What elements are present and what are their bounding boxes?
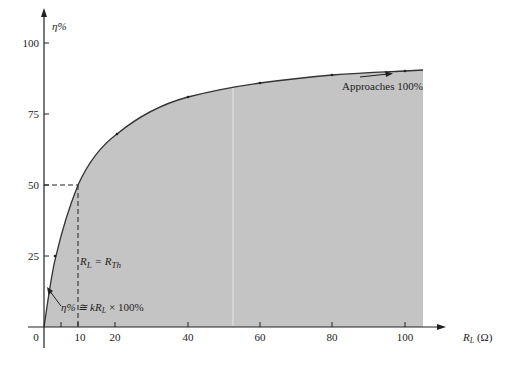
- x-tick-80: 80: [327, 331, 339, 343]
- x-axis-title: RL (Ω): [462, 331, 493, 345]
- x-tick-10: 10: [75, 331, 87, 343]
- x-tick-40: 40: [183, 331, 195, 343]
- x-tick-0: 0: [33, 331, 39, 343]
- y-tick-25: 25: [28, 250, 40, 262]
- x-tick-20: 20: [110, 331, 122, 343]
- y-axis-arrow-icon: [41, 8, 47, 17]
- efficiency-chart: 100 75 50 25 0 10 20 40 60 80 100 η% RL …: [0, 0, 512, 365]
- y-axis-title: η%: [52, 20, 67, 32]
- y-tick-100: 100: [23, 37, 40, 49]
- approaches-label: Approaches 100%: [342, 80, 423, 92]
- y-tick-50: 50: [28, 179, 40, 191]
- y-ticks: [44, 43, 49, 256]
- x-tick-60: 60: [255, 331, 267, 343]
- x-tick-100: 100: [397, 331, 414, 343]
- x-axis-arrow-icon: [437, 324, 446, 330]
- y-tick-75: 75: [28, 108, 40, 120]
